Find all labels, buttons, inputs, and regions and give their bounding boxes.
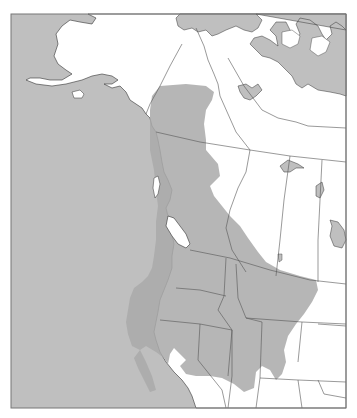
range-map: [0, 0, 357, 418]
